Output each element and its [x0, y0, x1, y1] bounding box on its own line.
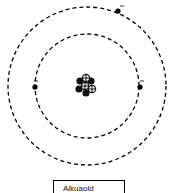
electron [115, 6, 124, 14]
nucleus [75, 74, 95, 96]
electron [32, 81, 38, 90]
proton [82, 74, 89, 81]
proton [81, 82, 88, 89]
element-label-box: Alkuaold [53, 180, 125, 193]
element-label: Alkuaold [63, 184, 94, 193]
proton [88, 85, 95, 92]
atom-diagram [0, 0, 170, 193]
